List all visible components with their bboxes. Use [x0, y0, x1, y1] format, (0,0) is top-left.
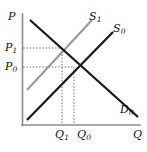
supply-shifted-curve [27, 20, 92, 90]
price-low-tick-label: P0 [5, 61, 17, 72]
supply-shifted-label: S1 [89, 11, 101, 22]
quantity-high-tick-label: Q0 [77, 129, 91, 140]
supply-demand-figure: P Q S1 S0 D0 P1 P0 Q1 Q0 [0, 0, 147, 152]
price-high-tick-label: P1 [5, 42, 17, 53]
quantity-low-tick-label: Q1 [55, 129, 69, 140]
y-axis-label: P [8, 11, 15, 22]
x-axis-label: Q [133, 129, 142, 140]
supply-original-label: S0 [113, 23, 125, 34]
demand-label: D0 [120, 104, 134, 115]
